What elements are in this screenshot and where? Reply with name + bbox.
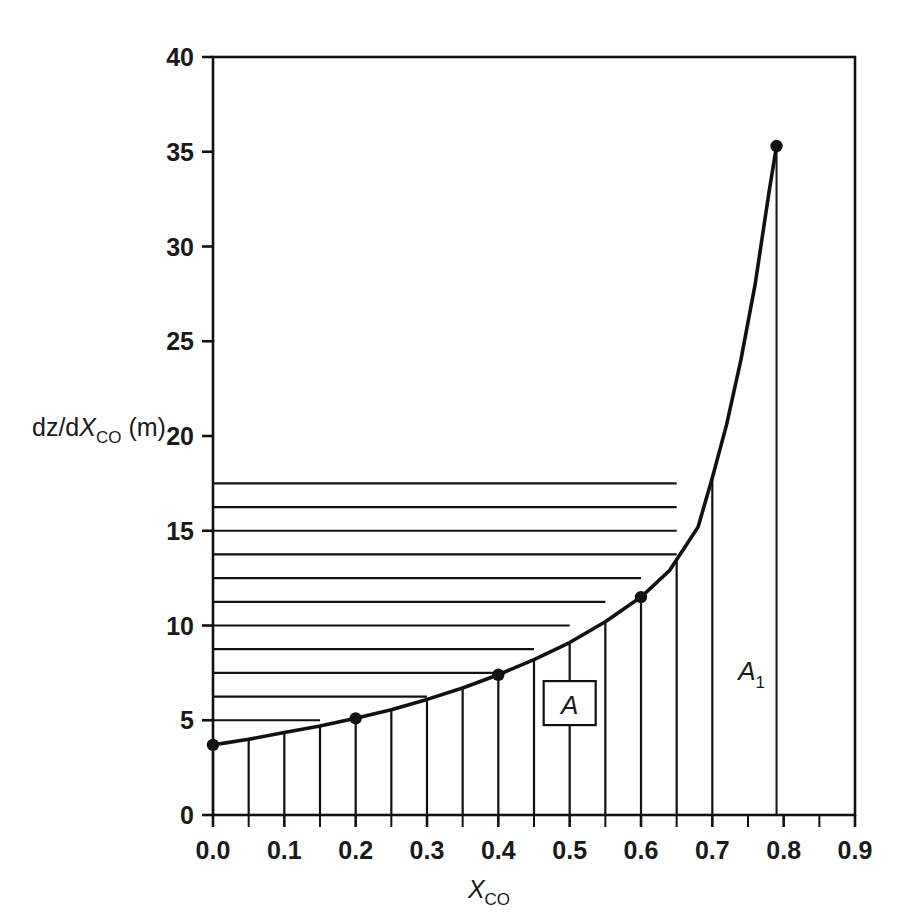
- x-axis-tick-label: 0.7: [695, 836, 730, 864]
- dzdxco-line-chart: 05101520253035400.00.10.20.30.40.50.60.7…: [0, 0, 899, 923]
- x-axis-title-variable: X: [467, 875, 486, 903]
- y-axis-tick-label: 25: [166, 327, 194, 355]
- x-axis-tick-label: 0.9: [838, 836, 873, 864]
- data-point-marker: [349, 712, 361, 724]
- area-A-label: A: [559, 690, 578, 720]
- y-axis-tick-label: 20: [166, 422, 194, 450]
- x-axis-tick-label: 0.3: [410, 836, 445, 864]
- x-axis-tick-label: 0.4: [481, 836, 516, 864]
- y-axis-title-units: (m): [121, 413, 165, 441]
- y-axis-title-variable: X: [78, 413, 97, 441]
- x-axis-tick-label: 0.1: [267, 836, 302, 864]
- chart-figure: 05101520253035400.00.10.20.30.40.50.60.7…: [0, 0, 899, 923]
- chart-background: [0, 0, 899, 923]
- y-axis-tick-label: 40: [166, 43, 194, 71]
- x-axis-tick-label: 0.8: [766, 836, 801, 864]
- data-point-marker: [492, 669, 504, 681]
- y-axis-tick-label: 30: [166, 233, 194, 261]
- x-axis-tick-label: 0.0: [196, 836, 231, 864]
- y-axis-tick-label: 0: [180, 801, 194, 829]
- y-axis-title-prefix: dz/d: [32, 413, 79, 441]
- y-axis-tick-label: 5: [180, 706, 194, 734]
- x-axis-tick-label: 0.6: [624, 836, 659, 864]
- y-axis-tick-label: 15: [166, 517, 194, 545]
- annotation-letter: A: [736, 656, 755, 686]
- y-axis-title-subscript: CO: [96, 428, 122, 447]
- x-axis-title-subscript: CO: [485, 890, 511, 909]
- annotation-subscript: 1: [756, 673, 765, 692]
- data-point-marker: [770, 140, 782, 152]
- x-axis-tick-label: 0.5: [552, 836, 587, 864]
- x-axis-tick-label: 0.2: [338, 836, 373, 864]
- y-axis-tick-label: 10: [166, 612, 194, 640]
- y-axis-tick-label: 35: [166, 138, 194, 166]
- annotation-letter: A: [559, 690, 578, 720]
- data-point-marker: [635, 591, 647, 603]
